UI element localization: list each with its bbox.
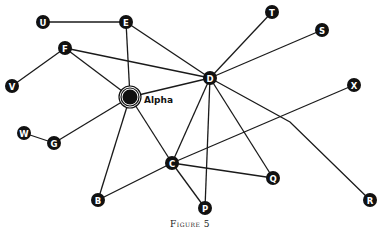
node-e: E: [119, 15, 133, 29]
edge-d-q: [210, 78, 273, 178]
node-w: W: [17, 126, 31, 140]
node-b: B: [91, 193, 105, 207]
node-label: Q: [269, 174, 276, 184]
node-c: C: [165, 156, 179, 170]
edge-d-s: [210, 30, 322, 78]
node-label: T: [269, 8, 275, 18]
edge-d-r: [210, 78, 370, 200]
node-q: Q: [266, 171, 280, 185]
node-p: P: [198, 201, 212, 215]
node-r: R: [363, 193, 377, 207]
network-diagram: Alpha UEFVDTSXWGCBPQR: [0, 0, 380, 234]
edge-c-p: [172, 163, 205, 208]
node-label: B: [95, 196, 101, 206]
node-g: G: [47, 136, 61, 150]
node-label: R: [367, 196, 374, 206]
node-x: X: [347, 78, 361, 92]
edge-f-v: [12, 48, 65, 86]
node-label: F: [62, 44, 68, 54]
node-u: U: [36, 15, 50, 29]
edge-alpha-b: [98, 97, 130, 200]
alpha-dot: [123, 90, 138, 105]
node-label: G: [51, 139, 58, 149]
edge-c-q: [172, 163, 273, 178]
node-label: V: [9, 82, 16, 92]
node-label: S: [319, 26, 325, 36]
edge-c-b: [98, 163, 172, 200]
node-label: P: [202, 204, 208, 214]
node-v: V: [5, 79, 19, 93]
edge-alpha-c: [130, 97, 172, 163]
node-label: U: [40, 18, 47, 28]
alpha-label: Alpha: [144, 95, 173, 105]
node-t: T: [265, 5, 279, 19]
node-label: E: [123, 18, 129, 28]
node-label: X: [351, 81, 358, 91]
node-label: D: [206, 74, 213, 84]
node-f: F: [58, 41, 72, 55]
edge-d-t: [210, 12, 272, 78]
edge-d-p: [205, 78, 210, 208]
edge-alpha-g: [54, 97, 130, 143]
edge-d-c: [172, 78, 210, 163]
node-d: D: [203, 71, 217, 85]
nodes-layer: UEFVDTSXWGCBPQR: [5, 5, 377, 215]
figure-caption: Figure 5: [0, 219, 380, 229]
node-label: C: [169, 159, 175, 169]
node-label: W: [19, 129, 29, 139]
edge-c-x: [172, 85, 354, 163]
node-s: S: [315, 23, 329, 37]
